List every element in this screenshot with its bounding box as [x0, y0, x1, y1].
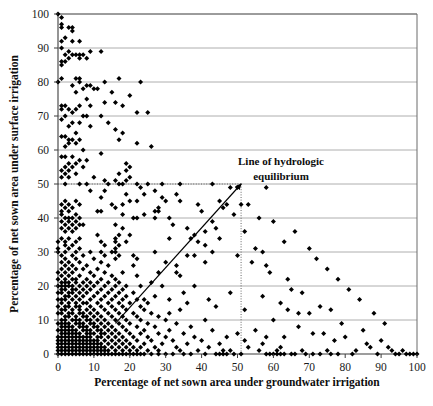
annotation-line1: Line of hydrologic — [238, 155, 324, 167]
y-tick-label-80: 80 — [38, 76, 50, 88]
x-tick-label-60: 60 — [268, 361, 280, 373]
x-tick-label-20: 20 — [124, 361, 136, 373]
y-tick-label-90: 90 — [38, 42, 50, 54]
x-tick-label-80: 80 — [339, 361, 351, 373]
y-tick-label-40: 40 — [38, 212, 50, 224]
y-tick-label-30: 30 — [38, 246, 50, 258]
x-tick-label-100: 100 — [408, 361, 426, 373]
x-tick-label-30: 30 — [160, 361, 172, 373]
y-axis-title: Percentage of net sown area under surfac… — [8, 55, 21, 313]
x-tick-label-90: 90 — [375, 361, 387, 373]
annotation-line2: equilibrium — [253, 170, 309, 182]
y-tick-label-60: 60 — [38, 144, 50, 156]
y-tick-label-0: 0 — [43, 348, 49, 360]
x-tick-label-0: 0 — [55, 361, 61, 373]
y-tick-label-10: 10 — [38, 314, 50, 326]
y-tick-label-100: 100 — [32, 8, 50, 20]
x-tick-label-10: 10 — [88, 361, 100, 373]
y-tick-label-50: 50 — [38, 178, 50, 190]
scatter-chart: 0102030405060708090100 01020304050607080… — [0, 0, 433, 406]
x-tick-label-70: 70 — [304, 361, 316, 373]
x-tick-label-50: 50 — [232, 361, 244, 373]
x-tick-label-40: 40 — [196, 361, 208, 373]
y-tick-label-20: 20 — [38, 280, 50, 292]
y-tick-label-70: 70 — [38, 110, 50, 122]
chart-canvas: 0102030405060708090100 01020304050607080… — [0, 0, 433, 406]
x-axis-title: Percentage of net sown area under ground… — [94, 376, 380, 389]
